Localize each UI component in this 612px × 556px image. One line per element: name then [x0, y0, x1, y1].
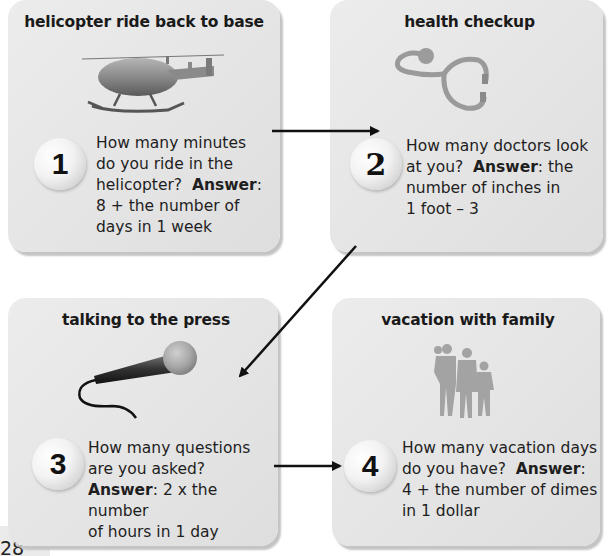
flow-arrows — [0, 0, 612, 556]
arrow-2-to-3 — [240, 246, 356, 376]
